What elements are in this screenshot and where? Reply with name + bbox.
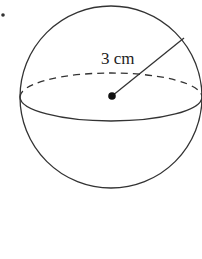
- equator-front: [20, 97, 202, 121]
- center-point: [108, 92, 116, 100]
- radius-label: 3 cm: [101, 49, 135, 68]
- sphere-diagram: 3 cm: [0, 0, 202, 259]
- bullet-dot: [1, 13, 5, 17]
